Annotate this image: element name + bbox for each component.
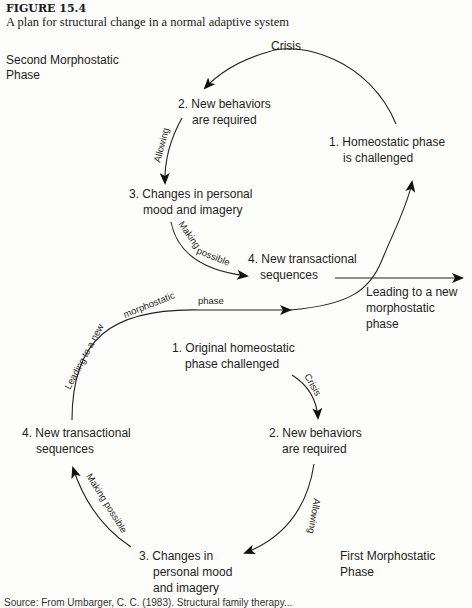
first-step1-l1: 1. Original homeostatic [172,341,295,355]
second-step1-l1: 1. Homeostatic phase [329,135,445,149]
first-step1-l2: phase challenged [185,357,279,371]
exit-label-l3: phase [366,317,399,331]
edge-label-allowing-top: Allowing [151,126,171,163]
second-step2-l1: 2. New behaviors [178,97,271,111]
first-step3-l3: and imagery [153,581,219,595]
second-step2-l2: are required [192,113,257,127]
second-step4-l1: 4. New transactional [248,252,357,266]
first-step4-l1: 4. New transactional [22,426,131,440]
second-step4-l2: sequences [260,268,318,282]
edge-label-crisis-top: Crisis [271,39,301,53]
exit-label-l2: morphostatic [366,301,435,315]
first-phase-title-l1: First Morphostatic [340,549,435,563]
second-step3-l1: 3. Changes in personal [129,187,252,201]
edge-label-making-top-b: possible [195,245,231,268]
first-step3-l2: personal mood [153,565,232,579]
second-phase-title-l1: Second Morphostatic [6,53,119,67]
first-step3-l1: 3. Changes in [139,549,213,563]
first-step2-l1: 2. New behaviors [269,426,362,440]
edge-label-leading-a: Leading to a new [62,322,106,391]
first-step2-l2: are required [282,442,347,456]
second-phase-title-l2: Phase [6,68,40,82]
edge-label-making-bottom: Making possible [84,471,129,535]
arrow-making-possible-bottom [73,468,131,547]
arrow-allowing-top [165,118,182,183]
source-note: Source: From Umbarger, C. C. (1983). Str… [4,597,292,608]
edge-label-crisis-bottom: Crisis [302,372,324,398]
first-phase-title-l2: Phase [340,565,374,579]
edge-label-leading-b: morphostatic [122,289,177,320]
edge-label-allowing-bottom: Allowing [306,498,323,535]
exit-label-l1: Leading to a new [366,285,458,299]
arrow-allowing-bottom [245,464,314,553]
second-step3-l2: mood and imagery [143,203,242,217]
first-step4-l2: sequences [36,442,94,456]
second-step1-l2: is challenged [343,151,413,165]
edge-label-leading-c: phase [198,295,224,306]
